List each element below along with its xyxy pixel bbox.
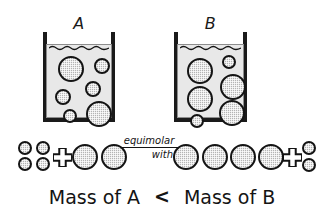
particle-b-4	[187, 86, 213, 112]
with-label: with	[119, 148, 179, 160]
particle-a-5	[63, 109, 77, 123]
solute-particle-right-4	[258, 144, 284, 170]
beaker-b-liquid-surface	[180, 45, 241, 51]
caption-right: Mass of B	[184, 186, 275, 208]
beaker-b-walls	[174, 32, 247, 122]
beaker-b-label: B	[174, 14, 247, 33]
solvent-particle-left-2	[36, 141, 50, 155]
beaker-b: B	[174, 18, 247, 122]
beaker-a-liquid	[46, 44, 112, 118]
solute-particle-left-1	[72, 144, 98, 170]
particle-b-6	[190, 114, 204, 128]
solute-particle-left-2	[101, 144, 127, 170]
particle-a-2	[94, 58, 110, 74]
particle-b-5	[219, 100, 245, 126]
solvent-particle-left-3	[18, 157, 32, 171]
beaker-a-walls	[43, 32, 115, 122]
particle-b-2	[222, 55, 236, 69]
solvent-particle-left-1	[18, 141, 32, 155]
solute-particle-right-3	[230, 144, 256, 170]
particle-a-6	[86, 101, 112, 127]
particle-a-4	[55, 89, 71, 105]
solute-particle-right-2	[202, 144, 228, 170]
particle-b-3	[220, 74, 246, 100]
solute-particle-right-1	[173, 144, 199, 170]
solvent-particle-right-2	[302, 158, 316, 172]
beaker-a-liquid-surface	[49, 45, 109, 51]
equimolar-with-note: equimolar with	[119, 136, 179, 160]
particle-b-1	[187, 58, 213, 84]
plus-icon-left	[53, 148, 72, 167]
beaker-a: A	[43, 18, 115, 122]
beaker-b-liquid	[177, 44, 244, 118]
caption-left: Mass of A	[49, 186, 140, 208]
particle-a-3	[85, 81, 101, 97]
figure-canvas: A B	[0, 0, 324, 222]
equimolar-label: equimolar	[119, 136, 179, 148]
caption-relation-symbol: <	[140, 185, 184, 207]
solvent-particle-right-1	[302, 141, 316, 155]
plus-icon-right	[283, 148, 302, 167]
beaker-a-label: A	[43, 14, 115, 33]
particle-a-1	[58, 56, 84, 82]
solvent-particle-left-4	[36, 157, 50, 171]
mass-comparison-caption: Mass of A<Mass of B	[0, 186, 324, 208]
